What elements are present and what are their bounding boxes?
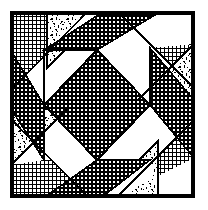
patch-group xyxy=(11,12,194,197)
quilt-block-canvas xyxy=(0,0,208,210)
quilt-block-figure xyxy=(0,0,208,210)
